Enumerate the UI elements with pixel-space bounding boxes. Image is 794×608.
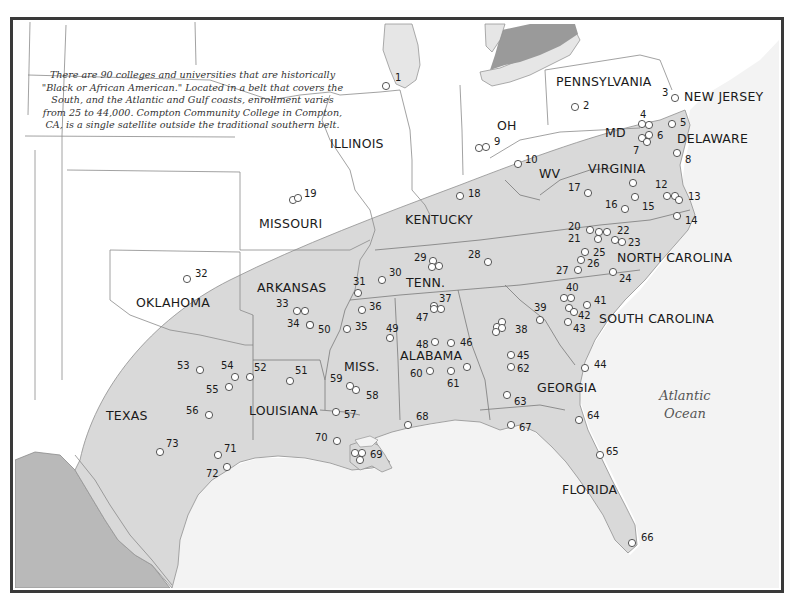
college-dot-icon[interactable] (507, 363, 514, 370)
college-dot-icon[interactable] (356, 456, 363, 463)
college-dot-icon[interactable] (223, 463, 230, 470)
college-dot-icon[interactable] (571, 103, 578, 110)
college-number: 7 (633, 145, 639, 156)
college-dot-icon[interactable] (638, 120, 645, 127)
college-marker[interactable] (356, 456, 363, 463)
college-dot-icon[interactable] (225, 383, 232, 390)
college-marker[interactable] (482, 143, 489, 150)
college-dot-icon[interactable] (560, 294, 567, 301)
college-marker[interactable] (567, 294, 574, 301)
college-marker[interactable] (492, 328, 499, 335)
college-dot-icon[interactable] (567, 294, 574, 301)
college-dot-icon[interactable] (663, 192, 670, 199)
college-dot-icon[interactable] (594, 235, 601, 242)
college-dot-icon[interactable] (595, 228, 602, 235)
college-dot-icon[interactable] (301, 307, 308, 314)
map-caption: There are 90 colleges and universities t… (40, 69, 345, 132)
college-dot-icon[interactable] (306, 321, 313, 328)
college-dot-icon[interactable] (507, 351, 514, 358)
college-dot-icon[interactable] (294, 194, 301, 201)
college-dot-icon[interactable] (156, 448, 163, 455)
college-dot-icon[interactable] (596, 451, 603, 458)
college-dot-icon[interactable] (354, 289, 361, 296)
college-dot-icon[interactable] (629, 179, 636, 186)
college-marker[interactable] (428, 263, 435, 270)
college-dot-icon[interactable] (583, 301, 590, 308)
college-dot-icon[interactable] (386, 334, 393, 341)
college-dot-icon[interactable] (293, 307, 300, 314)
college-dot-icon[interactable] (358, 306, 365, 313)
college-dot-icon[interactable] (437, 305, 444, 312)
college-dot-icon[interactable] (628, 539, 635, 546)
college-dot-icon[interactable] (343, 325, 350, 332)
college-marker[interactable] (629, 179, 636, 186)
college-dot-icon[interactable] (581, 364, 588, 371)
college-dot-icon[interactable] (435, 262, 442, 269)
college-dot-icon[interactable] (507, 421, 514, 428)
college-dot-icon[interactable] (536, 316, 543, 323)
college-dot-icon[interactable] (475, 144, 482, 151)
college-dot-icon[interactable] (586, 226, 593, 233)
college-dot-icon[interactable] (621, 205, 628, 212)
state-label-oh: OH (497, 118, 517, 133)
college-dot-icon[interactable] (214, 451, 221, 458)
college-dot-icon[interactable] (564, 318, 571, 325)
college-dot-icon[interactable] (671, 94, 678, 101)
college-dot-icon[interactable] (492, 328, 499, 335)
college-dot-icon[interactable] (378, 276, 385, 283)
college-dot-icon[interactable] (618, 238, 625, 245)
college-marker[interactable] (294, 194, 301, 201)
college-marker[interactable] (675, 196, 682, 203)
college-dot-icon[interactable] (430, 305, 437, 312)
college-dot-icon[interactable] (514, 160, 521, 167)
college-marker[interactable] (358, 449, 365, 456)
college-dot-icon[interactable] (286, 377, 293, 384)
college-dot-icon[interactable] (426, 367, 433, 374)
college-marker[interactable] (301, 307, 308, 314)
college-marker[interactable] (435, 262, 442, 269)
college-dot-icon[interactable] (603, 228, 610, 235)
college-marker[interactable] (463, 363, 470, 370)
college-marker[interactable] (595, 228, 602, 235)
college-dot-icon[interactable] (503, 391, 510, 398)
college-dot-icon[interactable] (609, 268, 616, 275)
college-dot-icon[interactable] (183, 275, 190, 282)
college-dot-icon[interactable] (645, 131, 652, 138)
college-dot-icon[interactable] (631, 193, 638, 200)
college-dot-icon[interactable] (575, 416, 582, 423)
college-dot-icon[interactable] (447, 367, 454, 374)
college-marker[interactable] (570, 308, 577, 315)
college-dot-icon[interactable] (447, 339, 454, 346)
college-dot-icon[interactable] (645, 121, 652, 128)
college-dot-icon[interactable] (584, 189, 591, 196)
college-dot-icon[interactable] (431, 338, 438, 345)
college-dot-icon[interactable] (351, 449, 358, 456)
college-dot-icon[interactable] (346, 382, 353, 389)
college-dot-icon[interactable] (332, 408, 339, 415)
college-marker[interactable] (645, 121, 652, 128)
college-dot-icon[interactable] (611, 236, 618, 243)
college-dot-icon[interactable] (196, 366, 203, 373)
college-marker[interactable] (611, 236, 618, 243)
college-dot-icon[interactable] (382, 82, 389, 89)
college-dot-icon[interactable] (577, 256, 584, 263)
college-dot-icon[interactable] (463, 363, 470, 370)
college-dot-icon[interactable] (358, 449, 365, 456)
college-dot-icon[interactable] (673, 149, 680, 156)
college-dot-icon[interactable] (456, 192, 463, 199)
college-dot-icon[interactable] (574, 266, 581, 273)
college-dot-icon[interactable] (231, 373, 238, 380)
college-dot-icon[interactable] (668, 120, 675, 127)
college-dot-icon[interactable] (673, 212, 680, 219)
college-dot-icon[interactable] (643, 138, 650, 145)
college-dot-icon[interactable] (581, 248, 588, 255)
college-dot-icon[interactable] (404, 421, 411, 428)
college-dot-icon[interactable] (205, 411, 212, 418)
college-dot-icon[interactable] (675, 196, 682, 203)
college-dot-icon[interactable] (484, 258, 491, 265)
college-dot-icon[interactable] (482, 143, 489, 150)
college-dot-icon[interactable] (570, 308, 577, 315)
college-dot-icon[interactable] (246, 373, 253, 380)
college-dot-icon[interactable] (333, 437, 340, 444)
college-dot-icon[interactable] (428, 263, 435, 270)
